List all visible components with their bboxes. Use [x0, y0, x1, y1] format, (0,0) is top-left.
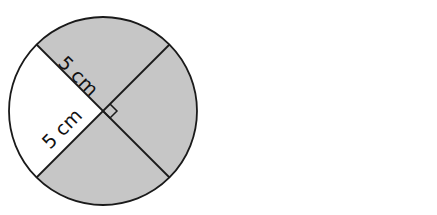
circle-diagram: 5 cm 5 cm	[0, 0, 437, 215]
